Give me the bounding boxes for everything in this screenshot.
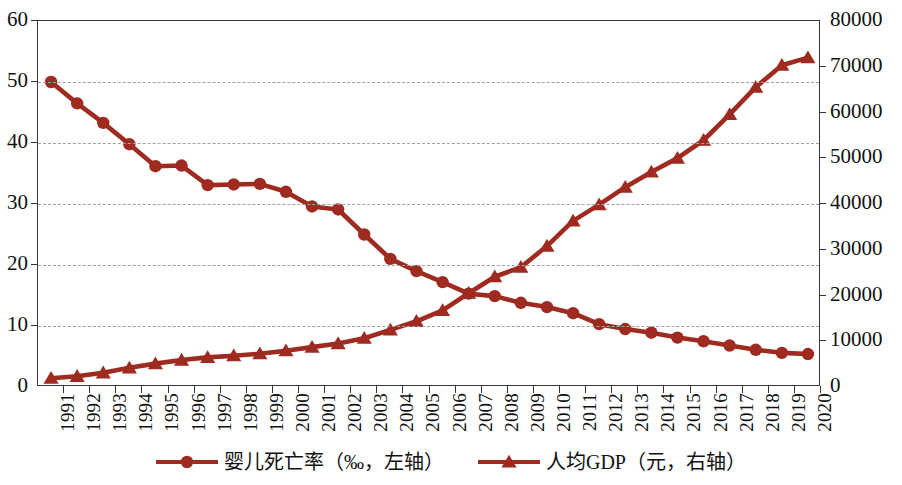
data-point-marker-circle xyxy=(515,297,527,309)
x-axis-tick-mark xyxy=(220,386,221,393)
x-axis-tick-label: 1996 xyxy=(189,393,208,432)
x-axis-tick-mark xyxy=(637,386,638,393)
y-axis-right-tick-mark xyxy=(820,157,826,158)
data-point-marker-circle xyxy=(175,159,187,171)
x-axis-tick-label: 2020 xyxy=(815,393,834,432)
data-point-marker-circle xyxy=(489,290,501,302)
x-axis-tick-mark xyxy=(429,386,430,393)
y-axis-right-tick-label: 40000 xyxy=(830,192,883,213)
x-axis-tick-mark xyxy=(768,386,769,393)
data-point-marker-circle xyxy=(645,327,657,339)
x-axis-tick-mark xyxy=(89,386,90,393)
x-axis-tick-label: 1995 xyxy=(162,393,181,432)
y-axis-left-tick-label: 20 xyxy=(7,253,28,274)
y-axis-left-tick-label: 60 xyxy=(7,9,28,30)
data-point-marker-circle xyxy=(306,200,318,212)
x-axis-tick-label: 2005 xyxy=(423,393,442,432)
data-point-marker-circle xyxy=(567,307,579,319)
x-axis-tick-mark xyxy=(690,386,691,393)
x-axis-tick-label: 2019 xyxy=(789,393,808,432)
x-axis-tick-label: 2003 xyxy=(371,393,390,432)
series-2 xyxy=(43,50,815,383)
x-axis-tick-label: 1997 xyxy=(215,393,234,432)
x-axis-tick-mark xyxy=(742,386,743,393)
gridline xyxy=(38,143,819,144)
x-axis-tick-mark xyxy=(481,386,482,393)
x-axis-tick-label: 2014 xyxy=(658,393,677,432)
y-axis-right-tick-label: 30000 xyxy=(830,238,883,259)
data-point-marker-circle xyxy=(723,339,735,351)
y-axis-right-tick-mark xyxy=(820,66,826,67)
x-axis-tick-label: 2001 xyxy=(319,393,338,432)
data-point-marker-circle xyxy=(358,228,370,240)
x-axis-tick-label: 2013 xyxy=(632,393,651,432)
y-axis-right-tick-mark xyxy=(820,340,826,341)
data-point-marker-circle xyxy=(541,301,553,313)
data-point-marker-circle xyxy=(201,179,213,191)
y-axis-right-tick-label: 60000 xyxy=(830,101,883,122)
y-axis-left-tick-mark xyxy=(31,142,37,143)
x-axis-tick-label: 2011 xyxy=(580,393,599,431)
data-point-marker-circle xyxy=(436,276,448,288)
y-axis-left-tick-mark xyxy=(31,325,37,326)
x-axis-tick-mark xyxy=(246,386,247,393)
y-axis-right-tick-label: 70000 xyxy=(830,55,883,76)
x-axis-tick-mark xyxy=(115,386,116,393)
data-point-marker-circle xyxy=(697,335,709,347)
chart-figure: 0102030405060 01000020000300004000050000… xyxy=(0,0,902,485)
data-point-marker-circle xyxy=(97,117,109,129)
x-axis-tick-mark xyxy=(350,386,351,393)
x-axis-tick-label: 2008 xyxy=(502,393,521,432)
data-point-marker-circle xyxy=(280,186,292,198)
series-line xyxy=(51,82,808,354)
x-axis-tick-label: 1994 xyxy=(136,393,155,432)
x-axis-tick-label: 2000 xyxy=(293,393,312,432)
gridline xyxy=(38,82,819,83)
data-point-marker-circle xyxy=(593,318,605,330)
y-axis-left-tick-label: 50 xyxy=(7,70,28,91)
x-axis-tick-mark xyxy=(141,386,142,393)
legend-label: 婴儿死亡率（‰，左轴） xyxy=(224,452,444,472)
y-axis-left-tick-mark xyxy=(31,81,37,82)
x-axis-tick-label: 1993 xyxy=(110,393,129,432)
legend-entry[interactable]: 婴儿死亡率（‰，左轴） xyxy=(156,452,444,472)
y-axis-left-tick-mark xyxy=(31,20,37,21)
legend-symbol xyxy=(156,453,218,471)
x-axis-tick-mark xyxy=(376,386,377,393)
legend-label: 人均GDP（元，右轴） xyxy=(546,452,746,472)
x-axis-tick-label: 2016 xyxy=(711,393,730,432)
x-axis-tick-label: 2012 xyxy=(606,393,625,432)
x-axis-tick-mark xyxy=(324,386,325,393)
x-axis-tick-mark xyxy=(507,386,508,393)
data-point-marker-circle xyxy=(228,178,240,190)
x-axis-tick-mark xyxy=(168,386,169,393)
y-axis-left-tick-label: 30 xyxy=(7,192,28,213)
gridline xyxy=(38,265,819,266)
x-axis-tick-label: 2015 xyxy=(684,393,703,432)
y-axis-left-tick-mark xyxy=(31,264,37,265)
y-axis-right-tick-mark xyxy=(820,203,826,204)
x-axis-tick-mark xyxy=(63,386,64,393)
gridline xyxy=(38,204,819,205)
y-axis-right-tick-mark xyxy=(820,295,826,296)
legend-marker-circle-icon xyxy=(177,453,197,471)
y-axis-right-tick-mark xyxy=(820,249,826,250)
chart-legend: 婴儿死亡率（‰，左轴）人均GDP（元，右轴） xyxy=(0,452,902,472)
x-axis-tick-label: 2018 xyxy=(763,393,782,432)
x-axis-tick-label: 1991 xyxy=(58,393,77,432)
y-axis-right-tick-label: 20000 xyxy=(830,284,883,305)
y-axis-left-tick-label: 40 xyxy=(7,131,28,152)
y-axis-right-tick-mark xyxy=(820,112,826,113)
legend-entry[interactable]: 人均GDP（元，右轴） xyxy=(478,452,746,472)
x-axis-tick-label: 1999 xyxy=(267,393,286,432)
y-axis-left-tick-label: 0 xyxy=(18,375,29,396)
x-axis-tick-mark xyxy=(298,386,299,393)
x-axis-tick-label: 2006 xyxy=(450,393,469,432)
x-axis-tick-mark xyxy=(194,386,195,393)
x-axis-tick-label: 1998 xyxy=(241,393,260,432)
legend-symbol xyxy=(478,453,540,471)
data-point-marker-circle xyxy=(802,348,814,360)
data-point-marker-circle xyxy=(71,97,83,109)
plot-area xyxy=(37,20,820,386)
x-axis-tick-mark xyxy=(716,386,717,393)
